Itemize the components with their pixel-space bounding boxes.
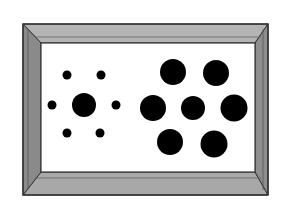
left-small-surround-circle	[48, 101, 57, 110]
right-center-circle	[181, 96, 205, 120]
right-large-surround-circle	[140, 95, 166, 121]
right-large-surround-circle	[221, 95, 248, 122]
right-large-surround-circle	[160, 59, 186, 85]
frame-bottom-bevel	[23, 172, 268, 195]
frame-left-bevel	[23, 24, 41, 195]
left-small-surround-circle	[63, 129, 72, 138]
left-small-surround-circle	[96, 129, 105, 138]
left-small-surround-circle	[97, 71, 106, 80]
ebbinghaus-figure	[0, 0, 285, 212]
left-center-circle	[72, 93, 96, 117]
right-large-surround-circle	[201, 131, 228, 158]
left-small-surround-circle	[112, 101, 121, 110]
left-small-surround-circle	[63, 71, 72, 80]
right-large-surround-circle	[203, 60, 229, 86]
right-large-surround-circle	[157, 129, 183, 155]
frame-top-bevel	[23, 24, 268, 43]
frame-right-bevel	[255, 24, 268, 195]
